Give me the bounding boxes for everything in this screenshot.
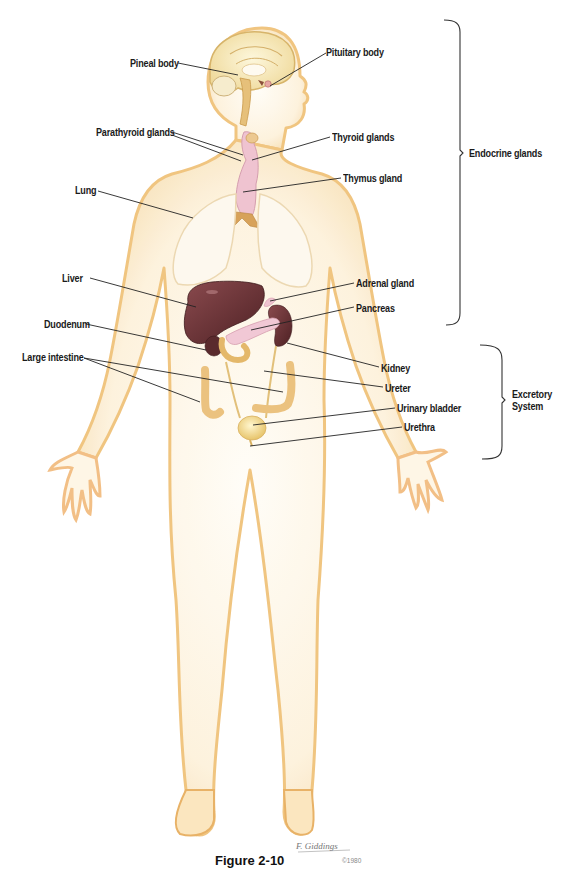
label-adrenal-gland: Adrenal gland — [356, 277, 414, 289]
label-thymus-gland: Thymus gland — [343, 172, 402, 184]
right-hand — [398, 450, 446, 510]
left-hand — [50, 452, 100, 520]
excretory-bracket — [480, 345, 505, 459]
label-pineal-body: Pineal body — [130, 57, 179, 69]
figure-caption: Figure 2-10 — [215, 853, 284, 868]
group-label-excretory-line1: Excretory — [512, 388, 552, 400]
group-label-excretory-line2: System — [512, 400, 552, 412]
label-pituitary-body: Pituitary body — [326, 46, 384, 58]
anatomy-illustration — [0, 0, 572, 880]
label-pancreas: Pancreas — [356, 302, 395, 314]
label-large-intestine: Large intestine — [22, 351, 84, 363]
feet — [176, 790, 314, 835]
label-lung: Lung — [75, 184, 96, 196]
group-label-endocrine: Endocrine glands — [469, 147, 542, 159]
label-ureter: Ureter — [385, 382, 411, 394]
label-kidney: Kidney — [381, 362, 410, 374]
copyright-mark: ©1980 — [342, 857, 361, 864]
label-liver: Liver — [62, 272, 83, 284]
label-urinary-bladder: Urinary bladder — [397, 402, 461, 414]
label-urethra: Urethra — [404, 421, 435, 433]
label-duodenum: Duodenum — [44, 318, 90, 330]
artist-signature: F. Giddings — [296, 841, 338, 851]
label-parathyroid-glands: Parathyroid glands — [96, 126, 175, 138]
label-thyroid-glands: Thyroid glands — [332, 131, 394, 143]
group-label-excretory: Excretory System — [512, 388, 552, 412]
endocrine-bracket — [444, 20, 463, 325]
